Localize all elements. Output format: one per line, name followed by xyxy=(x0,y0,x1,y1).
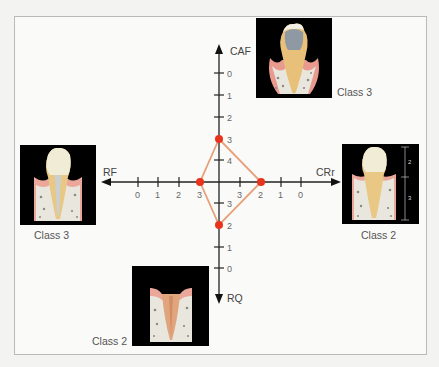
tick-label: 1 xyxy=(227,243,232,253)
caption-bottom: Class 2 xyxy=(92,335,127,347)
tick-label: 3 xyxy=(237,190,242,200)
tooth-image-left xyxy=(20,145,96,225)
caption-top: Class 3 xyxy=(337,86,372,98)
axis-label-crr: CRr xyxy=(316,166,335,178)
point-rq xyxy=(215,221,223,229)
tick-label: 2 xyxy=(176,190,181,200)
axis-label-caf: CAF xyxy=(230,45,251,57)
tick-label: 0 xyxy=(227,264,232,274)
tick-label: 1 xyxy=(278,190,283,200)
measure-label: 2 xyxy=(408,159,412,165)
measure-label: 3 xyxy=(408,195,412,201)
tick-label: 0 xyxy=(135,190,140,200)
axis-label-rq: RQ xyxy=(227,292,243,304)
tick-label: 1 xyxy=(155,190,160,200)
tick-label: 0 xyxy=(227,69,232,79)
arrow-right-icon xyxy=(331,178,341,186)
arrow-up-icon xyxy=(215,44,223,54)
tick-label: 2 xyxy=(227,113,232,123)
arrow-left-icon xyxy=(101,178,111,186)
point-crr xyxy=(257,178,265,186)
tick-label: 3 xyxy=(197,190,202,200)
tooth-image-top xyxy=(256,18,332,98)
tooth-image-bottom xyxy=(132,266,209,346)
tick-label: 3 xyxy=(227,199,232,209)
tick-label: 3 xyxy=(227,135,232,145)
tick-label: 2 xyxy=(227,221,232,231)
point-caf xyxy=(215,135,223,143)
axis-label-rf: RF xyxy=(103,166,117,178)
tick-label: 0 xyxy=(298,190,303,200)
tick-label: 4 xyxy=(227,156,232,166)
tick-label: 1 xyxy=(227,91,232,101)
arrow-down-icon xyxy=(215,294,223,304)
caption-left: Class 3 xyxy=(34,229,69,241)
tooth-image-right: 2 3 xyxy=(342,144,419,224)
point-rf xyxy=(196,178,204,186)
tick-label: 2 xyxy=(258,190,263,200)
caption-right: Class 2 xyxy=(361,229,396,241)
